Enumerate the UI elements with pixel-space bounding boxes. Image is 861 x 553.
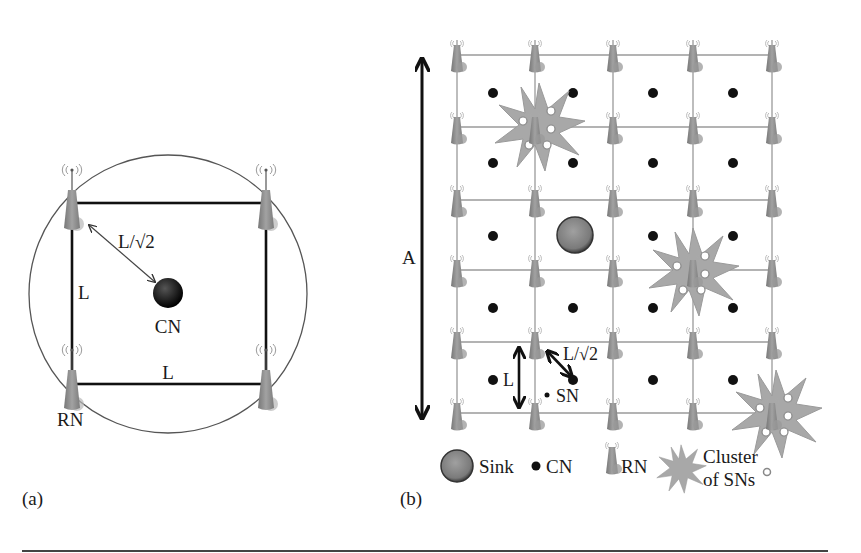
rn-icon [62,164,84,231]
sink-node [557,217,593,253]
panel-b: A L L/√2 SN Sink CN RN Cluster of SNs (b… [400,40,822,510]
side-label-vertical: L [78,282,90,303]
diag-label: L/√2 [118,231,155,252]
caption-b: (b) [400,488,422,510]
sn-dot [545,393,550,398]
panel-a: L/√2 L CN L RN (a) [22,155,307,510]
sn-cluster [732,370,822,458]
legend-cluster-icon [657,445,707,493]
legend: Sink CN RN Cluster of SNs [441,442,771,493]
legend-sn-ring-icon [764,469,771,476]
sn-label: SN [556,386,579,406]
cn-node [153,278,183,308]
caption-a: (a) [22,488,43,510]
rn-icon [256,164,278,231]
legend-cluster-label-2: of SNs [703,469,755,490]
legend-rn-icon [606,442,622,475]
area-label: A [402,247,416,268]
bottom-rule [22,550,828,552]
legend-cn-icon [532,462,541,471]
legend-sink-icon [441,450,473,482]
rn-label: RN [57,409,84,430]
relay-node-deployment-figure: L/√2 L CN L RN (a) [0,0,861,553]
diag-label: L/√2 [563,344,598,364]
side-label-horizontal: L [162,362,174,383]
spacing-label: L [503,370,514,390]
legend-rn-label: RN [621,456,648,477]
cn-label: CN [155,316,182,337]
legend-cluster-label-1: Cluster [703,446,759,467]
legend-sink-label: Sink [479,456,514,477]
legend-cn-label: CN [546,456,573,477]
